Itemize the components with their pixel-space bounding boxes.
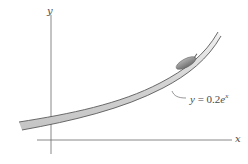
curve-upper-edge bbox=[19, 32, 218, 122]
exponential-curve-figure: y x y = 0.2ex bbox=[0, 0, 248, 164]
y-axis-label: y bbox=[47, 6, 53, 16]
curve-equation-label: y = 0.2ex bbox=[190, 93, 228, 105]
curve-ribbon bbox=[19, 32, 221, 130]
equation-exponent: x bbox=[225, 92, 228, 100]
curve-lower-edge bbox=[22, 36, 221, 130]
label-leader-line bbox=[172, 91, 186, 98]
x-axis-label: x bbox=[235, 134, 241, 144]
equation-coefficient: = 0.2 bbox=[195, 93, 220, 105]
